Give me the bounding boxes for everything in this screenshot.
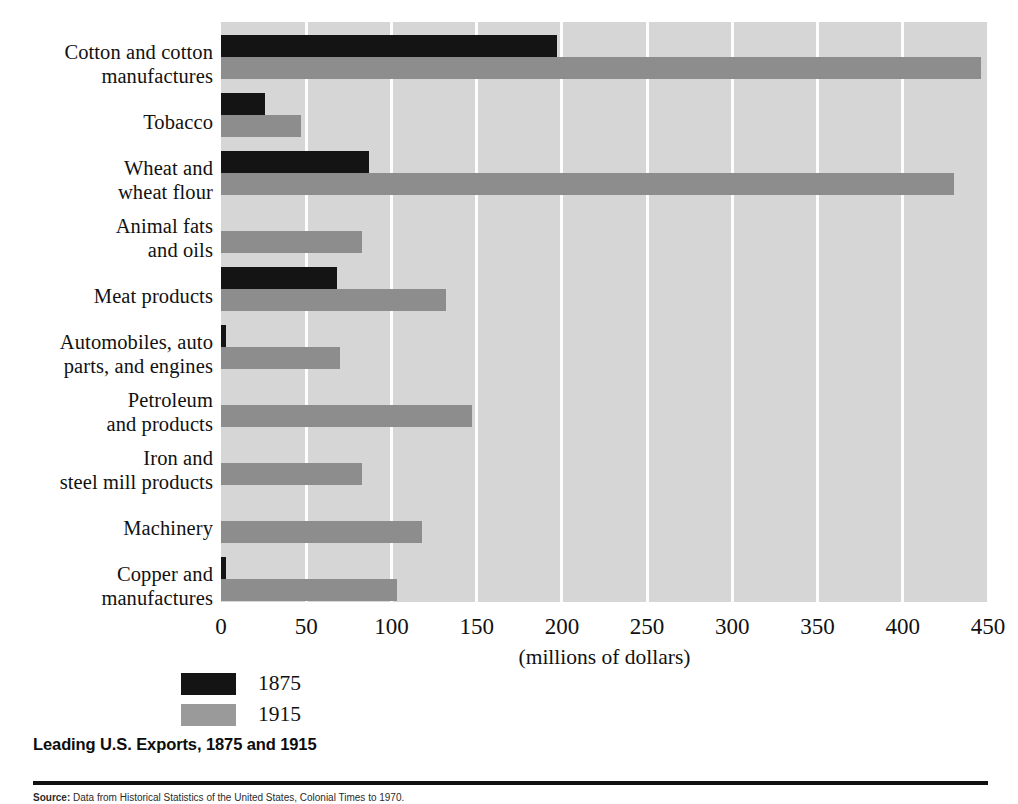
x-tick-label: 450: [971, 612, 1006, 642]
chart-figure: Cotton and cotton manufactures Tobacco W…: [0, 0, 1018, 804]
bar-1915: [221, 347, 340, 369]
bar-1875: [221, 35, 557, 57]
x-tick-label: 0: [215, 612, 227, 642]
legend-label-1875: 1875: [258, 671, 301, 696]
legend-item-1915: 1915: [181, 699, 501, 730]
bar-group: [221, 441, 988, 487]
legend-swatch-1875: [181, 673, 236, 695]
bar-1915: [221, 57, 981, 79]
x-tick-label: 200: [545, 612, 580, 642]
legend-item-1875: 1875: [181, 668, 501, 699]
x-tick-label: 50: [295, 612, 318, 642]
category-label: Iron and steel mill products: [0, 446, 213, 494]
bar-1875: [221, 93, 265, 115]
bar-1915: [221, 521, 422, 543]
bar-group: [221, 35, 988, 81]
category-label: Petroleum and products: [0, 388, 213, 436]
x-tick-label: 250: [630, 612, 665, 642]
bar-1875: [221, 267, 337, 289]
legend-label-1915: 1915: [258, 702, 301, 727]
caption-divider: [33, 781, 988, 785]
x-tick-label: 400: [886, 612, 921, 642]
figure-source-note: Source: Data from Historical Statistics …: [33, 791, 988, 804]
bar-1915: [221, 463, 362, 485]
bar-1915: [221, 579, 397, 601]
category-label: Cotton and cotton manufactures: [0, 40, 213, 88]
bar-1915: [221, 173, 954, 195]
category-label: Automobiles, auto parts, and engines: [0, 330, 213, 378]
x-tick-label: 350: [800, 612, 835, 642]
chart-legend: 1875 1915: [181, 668, 501, 730]
bar-group: [221, 325, 988, 371]
category-label: Copper and manufactures: [0, 562, 213, 610]
figure-caption-title: Leading U.S. Exports, 1875 and 1915: [33, 735, 317, 754]
source-lead: Source:: [33, 792, 70, 803]
category-label: Tobacco: [0, 110, 213, 134]
bar-1875: [221, 151, 369, 173]
bar-group: [221, 93, 988, 139]
category-label: Animal fats and oils: [0, 214, 213, 262]
category-label: Machinery: [0, 516, 213, 540]
bar-1915: [221, 289, 446, 311]
category-axis-labels: Cotton and cotton manufactures Tobacco W…: [0, 22, 213, 602]
x-tick-label: 300: [715, 612, 750, 642]
x-tick-label: 150: [459, 612, 494, 642]
bar-group: [221, 151, 988, 197]
bar-1915: [221, 231, 362, 253]
category-label: Meat products: [0, 284, 213, 308]
x-axis-tick-labels: 050100150200250300350400450: [0, 612, 1018, 644]
x-axis-title: (millions of dollars): [221, 645, 988, 670]
bar-1915: [221, 115, 301, 137]
source-text: Data from Historical Statistics of the U…: [73, 792, 404, 803]
bar-group: [221, 557, 988, 602]
bar-group: [221, 383, 988, 429]
bar-group: [221, 267, 988, 313]
bar-1875: [221, 325, 226, 347]
bar-group: [221, 499, 988, 545]
x-tick-label: 100: [374, 612, 409, 642]
category-label: Wheat and wheat flour: [0, 156, 213, 204]
bars-layer: [221, 22, 988, 602]
bar-1875: [221, 557, 226, 579]
plot-area: [221, 22, 988, 602]
bar-group: [221, 209, 988, 255]
bar-1915: [221, 405, 472, 427]
legend-swatch-1915: [181, 704, 236, 726]
